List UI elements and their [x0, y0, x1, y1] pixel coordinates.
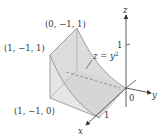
svg-text:z = y2: z = y2 [92, 50, 119, 61]
y-axis-label: y [151, 90, 157, 100]
x-axis-label: x [78, 126, 83, 136]
point-label-lower-left: (1, −1, 0) [14, 106, 55, 116]
y-axis-neg [126, 80, 136, 88]
eq-sign: = [97, 51, 110, 61]
z-tick [126, 44, 130, 45]
point-label-top: (0, −1, 1) [45, 19, 86, 29]
point-label-upper-left: (1, −1, 1) [4, 43, 45, 53]
z-axis-label: z [122, 5, 128, 15]
solid [50, 28, 126, 118]
eq-rhs-exp: 2 [115, 50, 119, 57]
x-tick-label: 1 [104, 110, 109, 120]
z-tick-label: 1 [117, 40, 122, 50]
origin-label: 0 [129, 93, 134, 103]
solid-region-diagram: z 1 0 y x 1 (0, −1, 1) (1, −1, 1) (1, −1… [0, 0, 165, 140]
